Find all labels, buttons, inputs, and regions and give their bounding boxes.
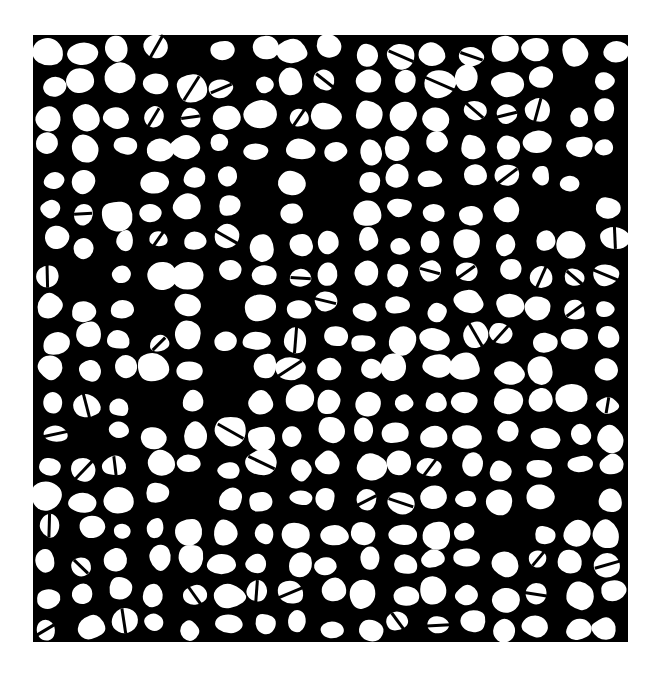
cell — [324, 326, 348, 346]
cell — [115, 355, 137, 378]
cell — [494, 389, 523, 415]
cell — [394, 586, 420, 606]
cell — [453, 549, 480, 567]
cell — [382, 422, 409, 443]
cell-wall — [614, 226, 615, 249]
cellular-texture-image — [0, 0, 660, 687]
cell-wall — [74, 213, 92, 214]
cell-wall — [49, 513, 50, 537]
cell-wall — [295, 327, 297, 353]
cell-wall — [47, 265, 48, 288]
cell — [66, 68, 94, 93]
cell — [253, 36, 279, 59]
cell-wall — [427, 625, 450, 626]
cell — [252, 265, 277, 285]
cell-wall — [291, 278, 311, 279]
cell — [213, 106, 241, 130]
cell-network — [31, 34, 630, 643]
cell — [176, 362, 202, 381]
cell — [249, 492, 272, 512]
cell — [497, 421, 518, 442]
cell-wall — [256, 580, 258, 603]
